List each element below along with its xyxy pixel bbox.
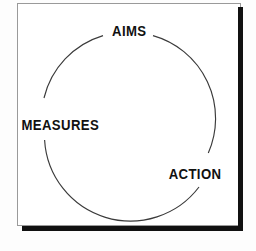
arc-measures-to-aims <box>44 36 103 98</box>
node-label-action: ACTION <box>169 167 222 181</box>
diagram-page: AIMS MEASURES ACTION <box>0 0 256 251</box>
frame-shadow-bottom <box>22 226 243 231</box>
node-label-measures: MEASURES <box>21 118 99 132</box>
arc-aims-to-action <box>153 36 216 153</box>
node-label-aims: AIMS <box>112 24 146 38</box>
